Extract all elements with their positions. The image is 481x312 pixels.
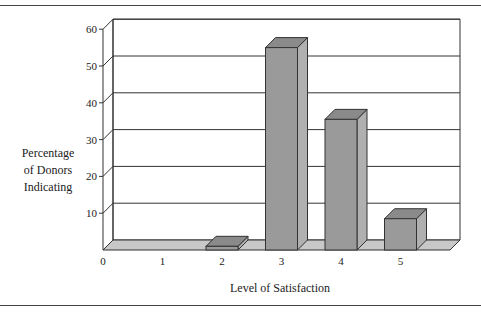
gridline-diagonal: [103, 130, 113, 140]
x-axis-label: Level of Satisfaction: [180, 281, 380, 296]
gridline-diagonal: [103, 93, 113, 103]
bar-chart: 102030405060012345: [0, 0, 481, 312]
y-tick-label: 40: [86, 97, 98, 109]
x-tick-label: 0: [100, 255, 106, 267]
gridline-diagonal: [103, 56, 113, 66]
bar-side: [298, 38, 308, 250]
bar: [325, 119, 357, 250]
y-tick-label: 50: [86, 60, 98, 72]
y-tick-label: 60: [86, 23, 98, 35]
y-tick-label: 30: [86, 134, 98, 146]
x-tick-label: 5: [398, 255, 404, 267]
gridline-diagonal: [103, 203, 113, 213]
x-tick-label: 2: [219, 255, 225, 267]
x-tick-label: 1: [160, 255, 166, 267]
gridline-diagonal: [103, 19, 113, 29]
x-tick-label: 4: [338, 255, 344, 267]
x-tick-label: 3: [279, 255, 285, 267]
bar: [385, 219, 417, 250]
bar-side: [357, 109, 367, 250]
gridline-diagonal: [103, 166, 113, 176]
bar: [266, 48, 298, 250]
y-tick-label: 10: [86, 207, 98, 219]
y-tick-label: 20: [86, 170, 98, 182]
bar: [206, 246, 238, 250]
